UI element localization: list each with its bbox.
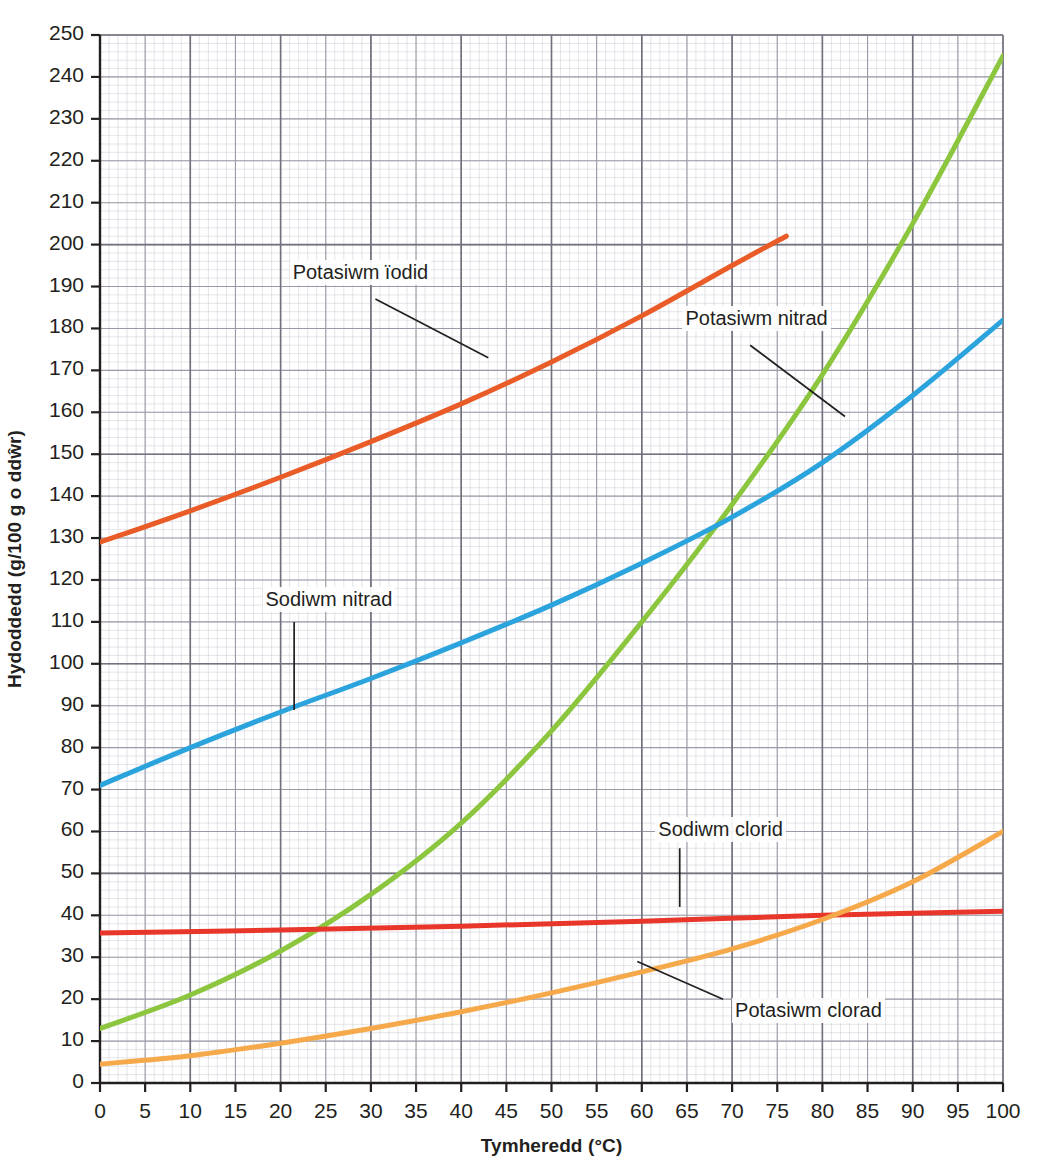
y-tick-label: 110 (51, 608, 84, 632)
y-tick-label: 160 (49, 398, 84, 422)
y-tick-label: 230 (49, 105, 84, 129)
y-tick-label: 60 (61, 817, 84, 841)
y-tick-label: 190 (49, 273, 84, 297)
y-tick-label: 150 (49, 440, 84, 464)
solubility-chart: Hydoddedd (g/100 g o ddŵr) Tymheredd (°C… (0, 0, 1043, 1157)
y-tick-label: 200 (49, 231, 84, 255)
y-tick-label: 50 (61, 859, 84, 883)
y-tick-label: 250 (49, 21, 84, 45)
leader-line-1 (750, 345, 845, 416)
axes (91, 35, 1003, 1092)
series-label-2: Sodiwm nitrad (263, 587, 396, 612)
y-tick-label: 220 (49, 147, 84, 171)
series-label-0: Potasiwm ïodid (290, 260, 432, 285)
x-tick-label: 100 (963, 1099, 1043, 1123)
y-tick-label: 90 (61, 692, 84, 716)
series-label-1: Potasiwm nitrad (682, 306, 830, 331)
y-tick-label: 70 (61, 776, 84, 800)
y-axis-title: Hydoddedd (g/100 g o ddŵr) (4, 430, 26, 688)
x-axis-title: Tymheredd (°C) (100, 1135, 1003, 1157)
y-tick-label: 210 (49, 189, 84, 213)
y-tick-label: 80 (61, 734, 84, 758)
y-tick-label: 100 (49, 650, 84, 674)
chart-plot-area (0, 0, 1043, 1157)
y-tick-label: 30 (61, 943, 84, 967)
series-label-4: Potasiwm clorad (732, 998, 885, 1023)
y-tick-label: 20 (61, 985, 84, 1009)
y-tick-label: 120 (49, 566, 84, 590)
y-tick-label: 180 (49, 314, 84, 338)
y-tick-label: 10 (61, 1027, 84, 1051)
y-tick-label: 240 (49, 63, 84, 87)
y-tick-label: 140 (49, 482, 84, 506)
y-tick-label: 40 (61, 901, 84, 925)
series-label-3: Sodiwm clorid (655, 817, 785, 842)
leader-line-4 (637, 961, 723, 999)
y-tick-label: 170 (49, 356, 84, 380)
y-tick-label: 0 (72, 1069, 84, 1093)
y-tick-label: 130 (49, 524, 84, 548)
